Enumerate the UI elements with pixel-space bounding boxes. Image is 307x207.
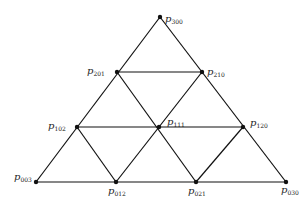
control-net-diagram: p300 p201 p210 p102 p111 p120 p003 p012 … <box>0 0 307 207</box>
edge-p102-p012 <box>77 127 116 182</box>
point-p021 <box>194 180 198 184</box>
point-p210 <box>200 70 204 74</box>
point-p012 <box>114 180 118 184</box>
label-p300: p300 <box>165 13 183 25</box>
control-points <box>34 15 288 184</box>
label-p003: p003 <box>14 171 32 183</box>
point-labels: p300 p201 p210 p102 p111 p120 p003 p012 … <box>14 13 299 197</box>
edge-p120-p021 <box>196 127 243 182</box>
label-p210: p210 <box>207 66 225 78</box>
label-p012: p012 <box>108 185 126 197</box>
point-p300 <box>158 15 162 19</box>
label-p102: p102 <box>48 120 66 132</box>
label-p120: p120 <box>250 117 268 129</box>
point-p102 <box>75 125 79 129</box>
label-p021: p021 <box>188 185 206 197</box>
point-p111 <box>157 125 161 129</box>
label-p201: p201 <box>87 65 105 77</box>
edges <box>36 17 286 182</box>
label-p111: p111 <box>167 116 185 128</box>
label-p030: p030 <box>281 184 299 196</box>
point-p201 <box>115 70 119 74</box>
point-p003 <box>34 180 38 184</box>
point-p120 <box>241 125 245 129</box>
